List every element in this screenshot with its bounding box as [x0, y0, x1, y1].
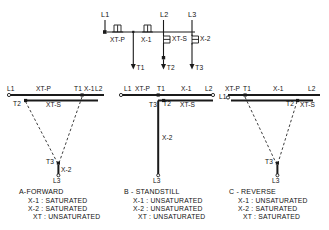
b-t1-node: [157, 93, 160, 96]
b-label-x2: X-2: [162, 134, 173, 141]
a-label-x1: X-1: [84, 85, 95, 92]
c-label-xt-s: XT-S: [300, 101, 316, 108]
b-label-l1: L1: [124, 85, 132, 92]
a-label-t3: T3: [46, 158, 54, 165]
a-left-leg: [26, 102, 58, 164]
c-label-l2: L2: [308, 85, 316, 92]
top-label-l3: L3: [188, 10, 196, 19]
a-label-xt-p: XT-P: [36, 85, 52, 92]
c-label-t2: T2: [286, 100, 294, 107]
coil-x-2: [192, 35, 199, 45]
b-condition-x2: X-2 : UNSATURATED: [133, 205, 203, 212]
top-label-xt-s: XT-S: [172, 35, 188, 42]
b-label-x1: X-1: [181, 85, 192, 92]
c-l1-node: [226, 96, 229, 99]
b-label-t3: T3: [149, 101, 157, 108]
b-condition-x1: X-1 : UNSATURATED: [133, 197, 203, 204]
a-caption: A-FORWARD: [19, 188, 64, 195]
b-label-xt-p: XT-P: [135, 85, 151, 92]
electrical-vector-diagram: L1 XT-P X-1 L2 XT-S: [0, 0, 329, 230]
figure-container: L1 XT-P X-1 L2 XT-S: [0, 0, 329, 230]
vector-diagram-c: L1 XT-P T1 X-1 L2 T2 XT-S T3 L3 C - REVE…: [219, 85, 320, 220]
c-condition-x2: X-2 : SATURATED: [238, 205, 297, 212]
top-label-l1: L1: [101, 10, 109, 19]
vector-diagram-a: L1 XT-P T1 X-1 L2 T2 XT-S T3 X-2 L3 A-FO…: [7, 85, 104, 220]
t1-arrow-icon: [131, 64, 136, 70]
c-left-leg: [245, 97, 276, 163]
t3-arrow-icon: [190, 64, 195, 70]
t2-node-dot: [162, 56, 165, 59]
a-t1-node: [81, 93, 84, 96]
a-label-t1: T1: [74, 85, 82, 92]
a-condition-x2: X-2 : SATURATED: [28, 205, 87, 212]
top-label-t1: T1: [137, 64, 145, 71]
c-condition-xt: XT : SATURATED: [243, 213, 300, 220]
c-right-leg: [278, 102, 297, 164]
a-label-l3: L3: [53, 177, 61, 184]
c-label-xt-p: XT-P: [225, 85, 241, 92]
b-label-l3: L3: [153, 177, 161, 184]
c-t3-node: [276, 162, 279, 165]
a-right-leg: [59, 97, 82, 163]
a-label-x2: X-2: [61, 166, 72, 173]
a-label-xt-s: XT-S: [46, 101, 62, 108]
b-condition-xt: XT : UNSATURATED: [138, 213, 205, 220]
a-label-t2: T2: [13, 100, 21, 107]
b-label-t1: T1: [157, 85, 165, 92]
coil-xt-s: [164, 35, 171, 45]
b-l2-node: [211, 93, 214, 96]
c-label-l1: L1: [219, 93, 227, 100]
b-label-xt-s: XT-S: [180, 101, 196, 108]
c-label-t1: T1: [243, 85, 251, 92]
top-label-t2: T2: [167, 64, 175, 71]
a-condition-x1: X-1 : SATURATED: [28, 197, 87, 204]
top-label-l2: L2: [160, 10, 168, 19]
a-l1-node: [7, 93, 10, 96]
c-label-x1: X-1: [273, 85, 284, 92]
top-label-x-1: X-1: [141, 36, 152, 43]
top-label-x-2: X-2: [200, 35, 211, 42]
c-label-l3: L3: [272, 177, 280, 184]
b-label-t2: T2: [163, 100, 171, 107]
t2-arrow-icon: [161, 64, 166, 70]
c-label-t3: T3: [265, 158, 273, 165]
l1-node-dot: [103, 30, 107, 34]
c-t2-node: [296, 99, 299, 102]
c-t1-node: [244, 93, 247, 96]
top-label-t3: T3: [195, 64, 203, 71]
a-condition-xt: XT : UNSATURATED: [33, 213, 100, 220]
b-caption: B - STANDSTILL: [124, 188, 180, 195]
c-caption: C - REVERSE: [229, 188, 276, 195]
vector-diagram-b: L1 XT-P T1 X-1 L2 T3 T2 XT-S X-2 L3 B - …: [119, 85, 214, 220]
coil-x-1: [142, 25, 153, 32]
top-circuit-schematic: L1 XT-P X-1 L2 XT-S: [101, 10, 211, 71]
b-label-l2: L2: [205, 85, 213, 92]
a-label-l1: L1: [7, 85, 15, 92]
c-condition-x1: X-1 : UNSATURATED: [238, 197, 308, 204]
a-label-l2: L2: [95, 85, 103, 92]
a-t3-node: [57, 162, 60, 165]
b-l1-node: [119, 93, 122, 96]
top-label-xt-p: XT-P: [110, 36, 126, 43]
coil-xt-p: [112, 25, 123, 32]
